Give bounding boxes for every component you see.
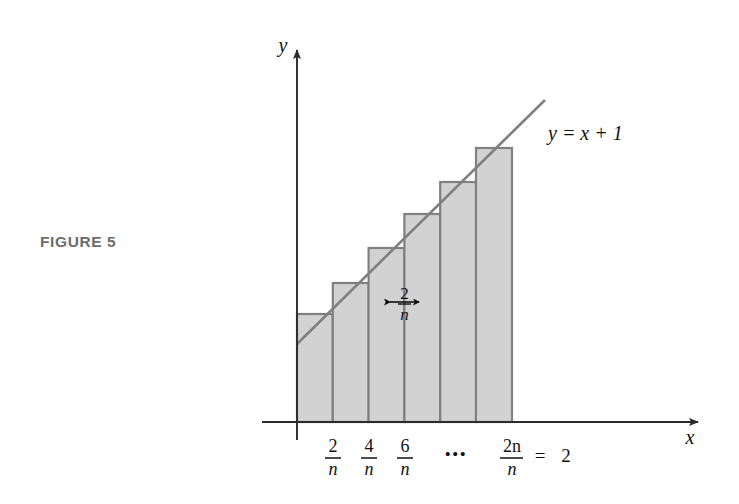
x-tick-denominator: n [508,459,517,479]
x-tick-equals-sign: = [535,445,546,466]
riemann-bar [297,314,333,422]
x-tick-label-last: 2n n = 2 [500,436,571,479]
width-fraction-denominator: n [400,305,409,324]
x-tick-denominator: n [401,459,410,479]
x-tick-numerator-text: 2n [503,436,521,456]
riemann-bar [404,214,440,422]
x-axis-ellipsis: ••• [445,445,467,464]
x-tick-label: 6 n [397,436,413,479]
riemann-bar [476,148,512,422]
width-fraction-numerator: 2 [400,284,409,303]
riemann-sum-diagram: y x y = x + 1 2 n 2 n 4 n 6 n ••• [0,0,739,504]
x-tick-value: 2 [561,445,571,466]
y-axis-label: y [277,34,288,57]
x-tick-denominator: n [329,459,338,479]
x-tick-denominator: n [365,459,374,479]
x-tick-numerator: 4 [365,436,374,456]
x-tick-numerator: 2 [329,436,338,456]
x-axis-label: x [685,426,695,448]
x-tick-label: 4 n [361,436,377,479]
riemann-bar [440,182,476,422]
x-tick-numerator: 2n [503,436,521,456]
x-tick-label: 2 n [325,436,341,479]
x-tick-numerator: 6 [401,436,410,456]
function-label: y = x + 1 [546,122,623,145]
figure-container: FIGURE 5 [0,0,739,504]
riemann-bar [369,248,405,422]
